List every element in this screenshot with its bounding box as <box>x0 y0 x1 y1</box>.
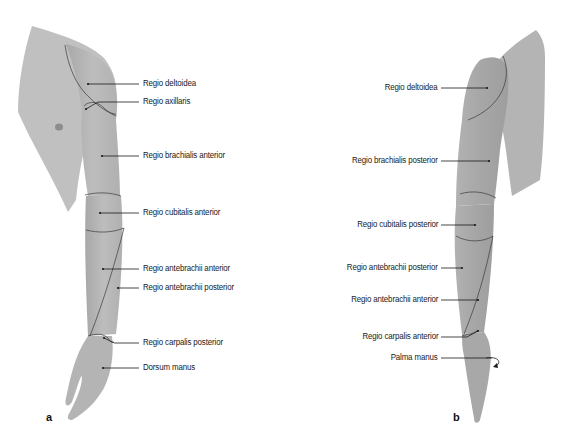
label-regio-antebrachii-anterior-b: Regio antebrachii anterior <box>351 294 438 305</box>
label-regio-carpalis-anterior: Regio carpalis anterior <box>362 331 438 342</box>
upper-arm-posterior <box>456 57 508 206</box>
label-regio-brachialis-anterior: Regio brachialis anterior <box>143 150 225 161</box>
label-regio-axillaris: Regio axillaris <box>143 96 190 107</box>
hand-palm <box>462 332 491 423</box>
label-regio-antebrachii-posterior-b: Regio antebrachii posterior <box>347 262 438 273</box>
forearm-anterior <box>85 196 122 336</box>
label-palma-manus: Palma manus <box>391 352 438 363</box>
panel-b-arm <box>455 30 545 423</box>
label-regio-deltoidea-b: Regio deltoidea <box>385 82 438 93</box>
forearm-posterior <box>455 204 494 334</box>
panel-letter-b: b <box>453 411 460 423</box>
label-regio-carpalis-posterior: Regio carpalis posterior <box>143 337 223 348</box>
label-dorsum-manus: Dorsum manus <box>143 362 195 373</box>
panel-letter-a: a <box>46 411 52 423</box>
label-regio-antebrachii-posterior-a: Regio antebrachii posterior <box>143 282 234 293</box>
label-regio-antebrachii-anterior-a: Regio antebrachii anterior <box>143 263 230 274</box>
label-regio-deltoidea-a: Regio deltoidea <box>143 78 196 89</box>
label-regio-brachialis-posterior: Regio brachialis posterior <box>352 155 438 166</box>
label-regio-cubitalis-posterior: Regio cubitalis posterior <box>357 219 438 230</box>
label-regio-cubitalis-anterior: Regio cubitalis anterior <box>143 207 220 218</box>
panel-a-arm <box>18 26 124 420</box>
anatomy-figure <box>0 0 572 438</box>
nipple <box>55 124 63 131</box>
hand-dorsum <box>65 336 112 420</box>
